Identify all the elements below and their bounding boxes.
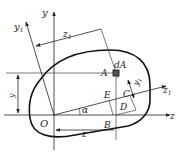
dA-element <box>113 70 119 76</box>
y1-axis-label: y1 <box>13 21 23 33</box>
y-dimension-label: y <box>7 93 16 99</box>
point-C-label: C <box>123 89 130 99</box>
z1-dimension-label: z1 <box>62 29 72 40</box>
alpha-arc <box>79 108 80 115</box>
z-dimension-label: z <box>81 129 87 139</box>
z1-axis-label: z1 <box>162 85 172 96</box>
E-line <box>109 100 113 115</box>
alpha-label: α <box>82 105 88 115</box>
y1-dimension-label: y1 <box>131 76 143 87</box>
C-line <box>130 96 136 110</box>
z-axis-label: z <box>169 111 175 121</box>
point-D-label: D <box>119 102 127 112</box>
origin-O-label: O <box>40 118 48 129</box>
y-axis-label: y <box>41 7 48 18</box>
point-E-label: E <box>103 90 111 100</box>
dA-label: dA <box>114 60 127 70</box>
point-A-label: A <box>100 68 108 78</box>
point-B-label: B <box>103 120 111 130</box>
cross-section-diagram: y y1 z1 y A dA y1 C D E B O α z z z1 <box>0 0 178 156</box>
